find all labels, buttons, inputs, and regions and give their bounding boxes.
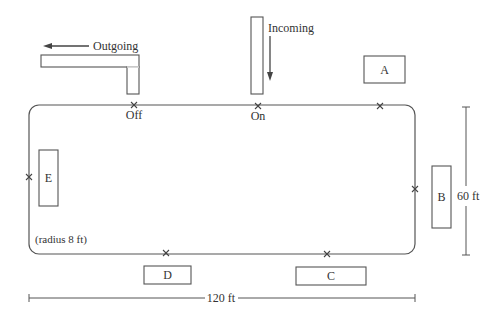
incoming-arrow-icon (267, 36, 273, 81)
station-e-label: E (45, 171, 52, 185)
station-e: E (39, 150, 58, 206)
x-marker-icon (163, 250, 169, 256)
station-c-label: C (327, 269, 335, 283)
station-c: C (296, 267, 366, 285)
station-d: D (144, 266, 191, 284)
station-b-label: B (437, 190, 445, 204)
outgoing-arrow-icon (43, 43, 89, 49)
incoming-label: Incoming (268, 21, 314, 35)
switch-off-label: Off (126, 108, 142, 122)
width-label: 120 ft (207, 291, 236, 305)
station-a-label: A (380, 63, 389, 77)
height-dimension (462, 107, 470, 255)
outgoing-spur (41, 55, 139, 94)
outgoing-label: Outgoing (93, 39, 138, 53)
height-label: 60 ft (457, 189, 480, 203)
track-loop (29, 105, 415, 254)
station-a: A (364, 56, 405, 83)
radius-note: (radius 8 ft) (35, 233, 87, 246)
switch-on-label: On (251, 109, 266, 123)
station-d-label: D (163, 268, 172, 282)
station-b: B (432, 166, 451, 228)
yard-diagram: Outgoing Incoming A B C D E Off On (r (0, 0, 499, 318)
x-marker-icon (377, 103, 383, 109)
incoming-spur (251, 17, 263, 94)
